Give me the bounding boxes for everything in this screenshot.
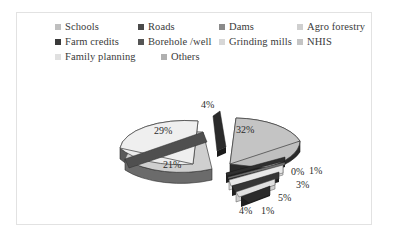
legend-label-borehole-well: Borehole /well (148, 36, 212, 47)
legend-item-borehole-well[interactable]: Borehole /well (138, 36, 219, 47)
chart-legend: Schools Roads Dams Agro forestry Farm cr… (55, 19, 367, 64)
legend-item-grinding-mills[interactable]: Grinding mills (219, 36, 297, 47)
legend-item-farm-credits[interactable]: Farm credits (55, 36, 138, 47)
legend-marker-dams (219, 24, 225, 30)
legend-marker-schools (55, 24, 61, 30)
legend-row: Family planning Others (55, 49, 367, 64)
legend-label-schools: Schools (65, 21, 99, 32)
legend-item-dams[interactable]: Dams (219, 21, 297, 32)
legend-item-others[interactable]: Others (161, 51, 200, 62)
data-label-borehole-well: 1% (261, 205, 274, 216)
pie-chart-graphic (17, 85, 373, 225)
legend-marker-others (161, 54, 167, 60)
pie-slice-others[interactable] (213, 111, 226, 151)
legend-item-nhis[interactable]: NHIS (297, 36, 332, 47)
legend-label-nhis: NHIS (307, 36, 332, 47)
legend-item-schools[interactable]: Schools (55, 21, 138, 32)
legend-marker-agro-forestry (297, 24, 303, 30)
legend-label-others: Others (171, 51, 200, 62)
data-label-farm-credits: 5% (278, 192, 291, 203)
legend-marker-farm-credits (55, 39, 61, 45)
data-label-others: 4% (201, 99, 214, 110)
legend-label-agro-forestry: Agro forestry (307, 21, 365, 32)
data-label-grinding-mills: 4% (239, 205, 252, 216)
data-label-family-planning: 29% (154, 125, 172, 136)
pie-chart-plot-area: 32% 29% 21% 4% 0% 1% 3% 5% 4% 1% (17, 85, 373, 225)
data-label-roads: 1% (309, 165, 322, 176)
legend-item-agro-forestry[interactable]: Agro forestry (297, 21, 365, 32)
legend-label-roads: Roads (148, 21, 175, 32)
data-label-agro-forestry: 3% (296, 179, 309, 190)
legend-marker-grinding-mills (219, 39, 225, 45)
legend-marker-nhis (297, 39, 303, 45)
legend-label-family-planning: Family planning (65, 51, 136, 62)
chart-frame: Schools Roads Dams Agro forestry Farm cr… (16, 12, 372, 225)
data-label-schools: 32% (236, 124, 254, 135)
legend-label-dams: Dams (229, 21, 254, 32)
legend-item-family-planning[interactable]: Family planning (55, 51, 161, 62)
legend-marker-borehole-well (138, 39, 144, 45)
legend-row: Farm credits Borehole /well Grinding mil… (55, 34, 367, 49)
legend-marker-family-planning (55, 54, 61, 60)
legend-label-farm-credits: Farm credits (65, 36, 119, 47)
data-label-nhis: 21% (163, 159, 181, 170)
legend-label-grinding-mills: Grinding mills (229, 36, 292, 47)
legend-item-roads[interactable]: Roads (138, 21, 219, 32)
legend-marker-roads (138, 24, 144, 30)
legend-row: Schools Roads Dams Agro forestry (55, 19, 367, 34)
data-label-dams: 0% (291, 166, 304, 177)
